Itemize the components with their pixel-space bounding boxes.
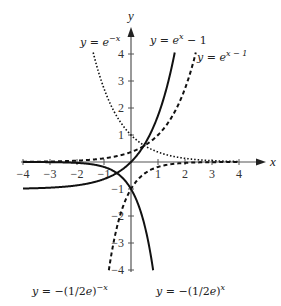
x-axis-arrow-icon xyxy=(256,159,266,166)
y-axis-arrow-icon xyxy=(128,27,135,37)
y-tick-label: 4 xyxy=(118,47,124,61)
curve-e-x-minus-1-shift xyxy=(23,53,196,162)
y-tick-label: 1 xyxy=(118,128,124,142)
label-e-neg-x: y = e−x xyxy=(80,34,120,49)
x-axis-label: x xyxy=(269,154,276,169)
x-tick-label: −4 xyxy=(17,167,30,181)
y-axis-label: y xyxy=(126,8,134,23)
x-tick-label: 3 xyxy=(209,167,215,181)
x-tick-label: 1 xyxy=(155,167,161,181)
label-e-x-minus-1-shift: y = ex − 1 xyxy=(197,49,247,64)
curve-e-neg-x xyxy=(93,53,239,162)
x-tick-label: −3 xyxy=(44,167,57,181)
x-tick-label: 4 xyxy=(236,167,242,181)
label-neg-half-e-x: y = −(1/2e)x xyxy=(156,283,225,298)
y-tick-label: −1 xyxy=(111,182,124,196)
y-tick-label: −4 xyxy=(111,263,124,277)
label-neg-half-e-neg-x: y = −(1/2e)−x xyxy=(32,283,108,298)
x-tick-label: −2 xyxy=(71,167,84,181)
y-tick-label: 3 xyxy=(118,74,124,88)
chart-canvas: xy−4−3−2−11234−4−3−2−11234 xyxy=(0,0,281,306)
x-tick-label: 2 xyxy=(182,167,188,181)
y-tick-label: 2 xyxy=(118,101,124,115)
label-e-x-minus-1: y = ex − 1 xyxy=(150,32,207,47)
